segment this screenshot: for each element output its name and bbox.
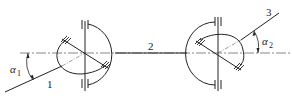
left-joint	[5, 20, 112, 92]
right-outer-fork	[186, 22, 215, 85]
shaft-3-axis	[218, 40, 241, 53]
shaft-3	[241, 13, 279, 40]
label-shaft-3: 3	[266, 6, 272, 18]
label-alpha2: α	[262, 35, 268, 47]
left-outer-fork	[88, 24, 112, 85]
label-alpha2-sub: 2	[269, 41, 273, 50]
alpha2-arrow-bottom	[257, 48, 260, 53]
left-inner-fork	[57, 40, 104, 74]
double-universal-joint-diagram: 1 2 3 α 1 α 2	[0, 0, 292, 102]
label-alpha1: α	[10, 63, 16, 75]
shaft-1-axis	[62, 53, 85, 66]
label-shaft-2: 2	[148, 40, 154, 52]
label-alpha1-sub: 1	[17, 69, 21, 78]
right-joint	[186, 13, 279, 91]
label-shaft-1: 1	[47, 78, 53, 90]
right-inner-fork	[200, 34, 244, 65]
